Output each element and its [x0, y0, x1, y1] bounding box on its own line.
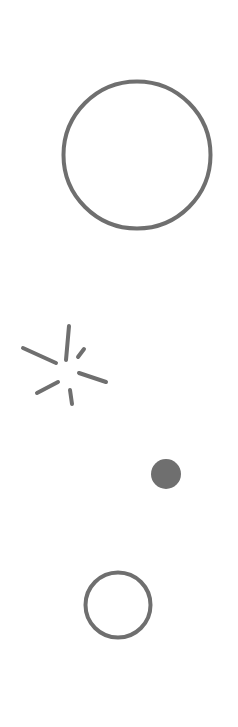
burst-ray-2 — [66, 326, 69, 360]
burst-ray-5 — [37, 382, 58, 393]
icon-sheet — [0, 0, 238, 727]
burst-ray-6 — [70, 390, 72, 404]
burst-ray-4 — [79, 373, 106, 382]
icon-sheet-svg — [0, 0, 238, 727]
circle-outline-icon — [64, 82, 211, 229]
filled-dot-icon — [151, 459, 181, 489]
ring-icon — [86, 573, 151, 638]
burst-ray-3 — [78, 349, 84, 357]
burst-ray-1 — [23, 348, 56, 363]
sparkle-burst-icon — [23, 326, 106, 404]
